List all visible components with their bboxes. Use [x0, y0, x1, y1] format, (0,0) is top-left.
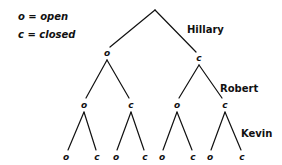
edge [107, 60, 129, 98]
edge [131, 112, 144, 150]
node-l3-6: o [207, 153, 213, 162]
edge [117, 112, 131, 150]
node-l3-1: c [94, 153, 99, 162]
node-l3-5: c [190, 153, 195, 162]
node-l3-0: o [63, 153, 69, 162]
node-l2-2: o [174, 101, 180, 110]
edge [211, 112, 225, 150]
edge-root-o [110, 10, 155, 47]
label-robert: Robert [220, 84, 258, 94]
node-l3-7: c [239, 153, 244, 162]
label-kevin: Kevin [241, 129, 272, 139]
edge [225, 112, 241, 150]
node-l3-4: o [159, 153, 165, 162]
node-l1-1: c [196, 54, 201, 63]
edge [163, 112, 177, 150]
edge [179, 65, 199, 98]
edge [177, 112, 192, 150]
node-l3-2: o [113, 153, 119, 162]
edge [84, 112, 96, 150]
node-l2-0: o [81, 101, 87, 110]
legend-closed: c = closed [18, 30, 75, 40]
node-l2-1: c [128, 101, 133, 110]
legend-open: o = open [18, 12, 68, 22]
edge [199, 65, 222, 98]
edge [86, 60, 107, 98]
node-l3-3: c [142, 153, 147, 162]
decision-tree-diagram: o = open c = closed Hillary Robert Kevin… [0, 0, 282, 165]
label-hillary: Hillary [187, 25, 224, 35]
node-l1-0: o [104, 49, 110, 58]
node-l2-3: c [222, 101, 227, 110]
edge [68, 112, 84, 150]
